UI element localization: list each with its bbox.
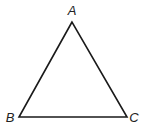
vertex-label-b: B <box>6 110 15 125</box>
triangle-abc <box>19 22 127 117</box>
vertex-label-a: A <box>67 3 77 18</box>
vertex-label-c: C <box>129 110 139 125</box>
triangle-diagram: A B C <box>0 0 144 131</box>
